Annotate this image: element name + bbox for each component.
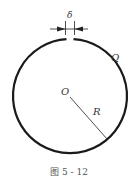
arrow-right-icon bbox=[57, 27, 66, 32]
ring-diagram: δ Q O R 图 5 - 12 bbox=[0, 0, 138, 182]
radius-line bbox=[70, 97, 107, 139]
center-label: O bbox=[61, 86, 69, 97]
ring-label: Q bbox=[111, 52, 119, 63]
arrow-left-icon bbox=[75, 27, 84, 32]
radius-label: R bbox=[92, 106, 101, 117]
split-ring bbox=[13, 39, 127, 153]
gap-label: δ bbox=[67, 10, 72, 20]
figure-caption: 图 5 - 12 bbox=[50, 167, 88, 177]
